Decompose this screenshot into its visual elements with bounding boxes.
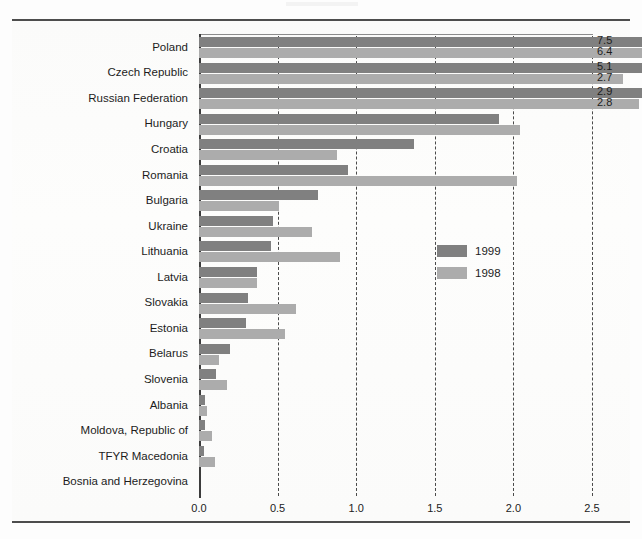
bar-1999 <box>199 420 205 430</box>
category-label-bosnia-and-herzegovina: Bosnia and Herzegovina <box>0 475 188 487</box>
bar-1998 <box>199 355 219 365</box>
category-label-latvia: Latvia <box>0 271 188 283</box>
bar-row <box>199 215 592 241</box>
category-label-romania: Romania <box>0 169 188 181</box>
plot-top-border <box>199 34 593 35</box>
bar-row <box>199 36 592 62</box>
bar-1998 <box>199 304 296 314</box>
bar-1998 <box>199 74 623 84</box>
bar-row <box>199 87 592 113</box>
bar-row <box>199 189 592 215</box>
category-label-estonia: Estonia <box>0 322 188 334</box>
bar-1999 <box>199 344 230 354</box>
bar-row <box>199 266 592 292</box>
bar-row <box>199 368 592 394</box>
category-label-tfyr-macedonia: TFYR Macedonia <box>0 450 188 462</box>
bar-row <box>199 138 592 164</box>
bar-1999 <box>199 63 642 73</box>
category-label-hungary: Hungary <box>0 117 188 129</box>
category-label-ukraine: Ukraine <box>0 220 188 232</box>
bar-1998 <box>199 99 639 109</box>
category-label-poland: Poland <box>0 41 188 53</box>
bar-1999 <box>199 139 414 149</box>
figure-bottom-rule <box>12 521 630 523</box>
bar-1999 <box>199 114 499 124</box>
x-tick-label: 2.5 <box>584 502 599 514</box>
category-label-lithuania: Lithuania <box>0 245 188 257</box>
x-tick-label: 0.0 <box>191 502 206 514</box>
category-label-slovenia: Slovenia <box>0 373 188 385</box>
bar-1998 <box>199 125 520 135</box>
x-tick-label: 0.5 <box>270 502 285 514</box>
x-tick-label: 1.0 <box>349 502 364 514</box>
x-tick-label: 2.0 <box>506 502 521 514</box>
bar-1998 <box>199 176 517 186</box>
bar-1999 <box>199 318 246 328</box>
bar-row <box>199 470 592 496</box>
bar-1999 <box>199 369 216 379</box>
bar-1999 <box>199 241 271 251</box>
bar-1998 <box>199 201 279 211</box>
category-label-russian-federation: Russian Federation <box>0 92 188 104</box>
category-label-moldova-republic-of: Moldova, Republic of <box>0 424 188 436</box>
legend-swatch-1998 <box>437 267 467 279</box>
x-tick-label: 1.5 <box>427 502 442 514</box>
scan-artifact <box>286 2 358 6</box>
bar-1999 <box>199 190 318 200</box>
category-label-croatia: Croatia <box>0 143 188 155</box>
bar-1999 <box>199 267 257 277</box>
category-label-slovakia: Slovakia <box>0 296 188 308</box>
bar-1998 <box>199 380 227 390</box>
bar-row <box>199 419 592 445</box>
bar-1998 <box>199 431 212 441</box>
category-label-belarus: Belarus <box>0 347 188 359</box>
bar-1998 <box>199 48 642 58</box>
bar-row <box>199 394 592 420</box>
bar-1998 <box>199 150 337 160</box>
bar-1999 <box>199 293 248 303</box>
bar-row <box>199 317 592 343</box>
legend-swatch-1999 <box>437 245 467 257</box>
bar-row <box>199 343 592 369</box>
bar-row <box>199 292 592 318</box>
bar-1998 <box>199 278 257 288</box>
bar-1999 <box>199 446 204 456</box>
bar-row <box>199 240 592 266</box>
chart-legend: 19991998 <box>437 242 533 286</box>
bar-1999 <box>199 37 642 47</box>
legend-label-1999: 1999 <box>475 245 501 257</box>
bar-row <box>199 62 592 88</box>
bar-1999 <box>199 88 642 98</box>
bar-1998 <box>199 406 207 416</box>
value-label: 2.8 <box>597 96 612 108</box>
bar-1999 <box>199 216 273 226</box>
category-label-czech-republic: Czech Republic <box>0 66 188 78</box>
legend-item: 1999 <box>437 242 533 259</box>
bar-1998 <box>199 329 285 339</box>
category-label-albania: Albania <box>0 399 188 411</box>
bar-1998 <box>199 227 312 237</box>
legend-label-1998: 1998 <box>475 267 501 279</box>
bar-1999 <box>199 395 205 405</box>
bar-row <box>199 113 592 139</box>
plot-area <box>199 36 592 496</box>
bar-1999 <box>199 165 348 175</box>
value-label: 6.4 <box>597 45 612 57</box>
chart-figure: 0.00.51.01.52.02.5 PolandCzech RepublicR… <box>0 0 642 539</box>
category-label-bulgaria: Bulgaria <box>0 194 188 206</box>
bar-row <box>199 164 592 190</box>
bar-1998 <box>199 252 340 262</box>
bar-1998 <box>199 457 215 467</box>
figure-top-rule <box>12 19 630 21</box>
bar-row <box>199 445 592 471</box>
value-label: 2.7 <box>597 71 612 83</box>
legend-item: 1998 <box>437 264 533 281</box>
